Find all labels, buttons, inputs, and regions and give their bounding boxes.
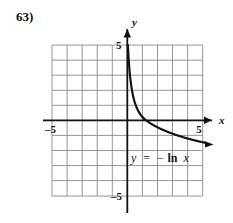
equation-minus: − [157, 151, 164, 165]
x-axis-arrowhead [204, 117, 212, 124]
x-axis-tick-label-positive-5: 5 [196, 123, 202, 135]
equation-equals: = [143, 151, 150, 165]
y-axis-arrowhead [124, 29, 131, 38]
equation-lhs: y [130, 151, 137, 165]
equation-function: ln [167, 151, 177, 165]
figure-container: 63) [0, 0, 233, 223]
equation-annotation: y = − ln x [130, 151, 189, 165]
y-axis-label: y [130, 16, 137, 28]
equation-argument: x [182, 151, 189, 165]
graph-plot: 5 –5 5 –5 y x y = − ln x [0, 0, 233, 223]
y-axis-tick-label-positive-5: 5 [116, 39, 122, 51]
curve-arrowhead [205, 141, 214, 148]
y-axis-tick-label-negative-5: –5 [110, 190, 123, 202]
x-axis-tick-label-negative-5: –5 [44, 123, 57, 135]
x-axis-label: x [218, 114, 225, 126]
